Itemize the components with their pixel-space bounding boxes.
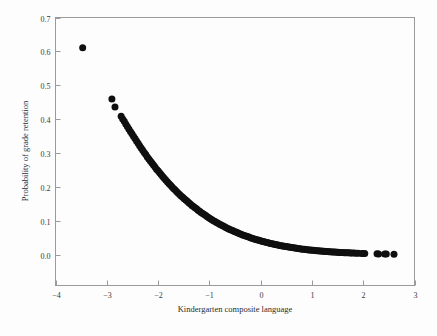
plot-canvas: −4−3−2−10123 0.00.10.20.30.40.50.60.7 Ki…	[0, 0, 437, 336]
x-tick-label: −4	[52, 291, 61, 300]
x-tick-label: −1	[205, 291, 214, 300]
y-tick-label: 0.0	[41, 252, 51, 261]
y-axis-title: Probability of grade retention	[20, 100, 30, 201]
x-tick-label: −3	[103, 291, 112, 300]
scatter-plot-figure: −4−3−2−10123 0.00.10.20.30.40.50.60.7 Ki…	[0, 0, 437, 336]
data-point	[383, 251, 390, 258]
data-point	[361, 250, 368, 257]
x-tick-label: 3	[414, 291, 418, 300]
y-tick-label: 0.2	[41, 184, 51, 193]
x-tick-label: −2	[154, 291, 163, 300]
y-tick-label: 0.4	[41, 116, 51, 125]
x-axis-tick-labels: −4−3−2−10123	[52, 291, 417, 300]
x-tick-label: 1	[311, 291, 315, 300]
y-tick-label: 0.7	[41, 15, 51, 24]
data-point	[375, 250, 382, 257]
y-tick-label: 0.3	[41, 150, 51, 159]
data-point	[111, 104, 118, 111]
y-tick-label: 0.6	[41, 48, 51, 57]
x-tick-label: 0	[260, 291, 264, 300]
y-tick-label: 0.1	[41, 218, 51, 227]
x-axis-title: Kindergarten composite language	[178, 304, 293, 314]
x-axis-ticks	[57, 281, 416, 286]
y-tick-label: 0.5	[41, 82, 51, 91]
data-point	[108, 95, 115, 102]
data-point	[390, 251, 397, 258]
data-point	[79, 44, 86, 51]
data-points-layer	[79, 44, 397, 258]
x-tick-label: 2	[362, 291, 366, 300]
plot-frame	[56, 18, 415, 286]
y-axis-ticks	[56, 19, 61, 256]
y-axis-tick-labels: 0.00.10.20.30.40.50.60.7	[41, 15, 51, 261]
